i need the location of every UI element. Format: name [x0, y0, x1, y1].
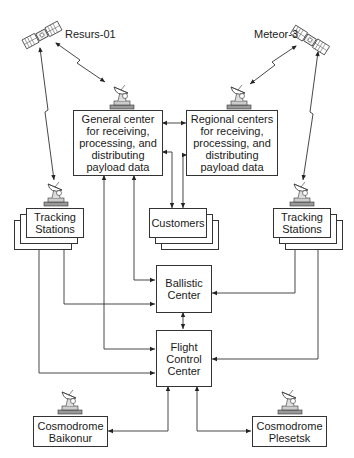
- dish-antenna-icon: [58, 390, 82, 414]
- node-customers-label: Customers: [151, 217, 204, 229]
- node-cosmodrome-plesetsk[interactable]: Cosmodrome Plesetsk: [252, 416, 327, 447]
- node-regional-centers-label: Regional centers for receiving, processi…: [191, 113, 274, 173]
- node-tracking-stations-left[interactable]: Tracking Stations: [26, 208, 84, 238]
- node-cosmodrome-baikonur[interactable]: Cosmodrome Baikonur: [33, 416, 108, 447]
- node-ballistic-label: Ballistic Center: [165, 277, 202, 301]
- node-customers[interactable]: Customers: [149, 208, 207, 238]
- dish-antenna-icon: [290, 182, 314, 206]
- node-ballistic-center[interactable]: Ballistic Center: [156, 265, 212, 313]
- satellite-icon: [22, 21, 62, 49]
- node-baikonur-label: Cosmodrome Baikonur: [37, 420, 103, 444]
- node-tracking-stations-right[interactable]: Tracking Stations: [273, 208, 331, 238]
- node-tracking-right-label: Tracking Stations: [281, 211, 323, 235]
- dish-antenna-icon: [44, 182, 68, 206]
- node-flight-control-center[interactable]: Flight Control Center: [156, 330, 212, 387]
- satellite-label-resurs: Resurs-01: [65, 28, 116, 40]
- dish-antenna-icon: [227, 85, 251, 109]
- node-flight-control-label: Flight Control Center: [166, 341, 201, 377]
- node-tracking-left-label: Tracking Stations: [34, 211, 76, 235]
- satellite-label-meteor: Meteor-3: [254, 28, 298, 40]
- node-plesetsk-label: Cosmodrome Plesetsk: [256, 420, 322, 444]
- node-regional-centers[interactable]: Regional centers for receiving, processi…: [186, 110, 278, 176]
- node-general-center-label: General center for receiving, processing…: [79, 113, 157, 173]
- dish-antenna-icon: [110, 85, 134, 109]
- dish-antenna-icon: [278, 390, 302, 414]
- node-general-center[interactable]: General center for receiving, processing…: [73, 110, 163, 176]
